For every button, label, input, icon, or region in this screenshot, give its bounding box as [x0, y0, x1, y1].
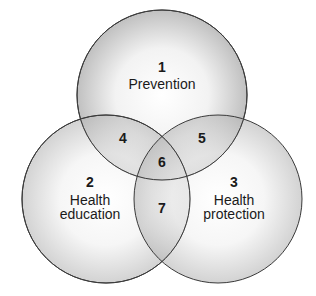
region-3-label-line2: protection: [203, 206, 264, 222]
venn-diagram: 1 Prevention 2 Health education 3 Health…: [0, 0, 316, 296]
region-5-number: 5: [198, 130, 206, 146]
region-6-number: 6: [158, 154, 166, 170]
region-3-number: 3: [230, 174, 238, 190]
region-1-number: 1: [158, 59, 166, 75]
region-4-number: 4: [119, 130, 127, 146]
region-1-label: Prevention: [129, 76, 196, 92]
region-2-number: 2: [86, 174, 94, 190]
region-2-label-line2: education: [60, 206, 121, 222]
region-7-number: 7: [158, 200, 166, 216]
